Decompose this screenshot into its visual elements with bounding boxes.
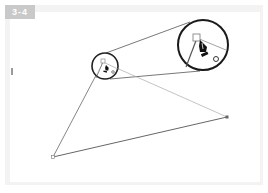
anchor-point-icon xyxy=(101,59,105,63)
path-segment-bottom xyxy=(53,117,227,157)
pen-tool-diagram xyxy=(0,0,268,193)
path-segment-left xyxy=(53,62,103,157)
magnifier-small-circle xyxy=(92,53,118,79)
anchor-point-icon xyxy=(193,34,200,41)
zoom-connector-bottom xyxy=(110,71,200,79)
anchor-point-icon xyxy=(226,116,229,119)
anchor-point-icon xyxy=(52,156,55,159)
